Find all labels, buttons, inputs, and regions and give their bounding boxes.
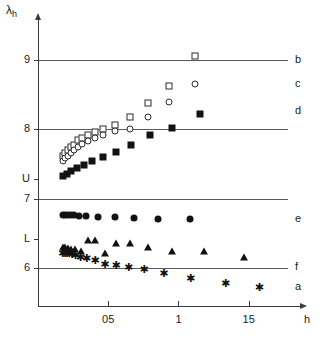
data-point-d xyxy=(89,158,96,165)
y-tick-label-9: 9 xyxy=(8,54,30,65)
data-point-d xyxy=(80,162,87,169)
data-point-a: ✱ xyxy=(186,273,195,282)
y-tick-7 xyxy=(34,199,39,200)
data-point-d xyxy=(112,148,119,155)
data-point-e xyxy=(94,213,101,220)
gridline-y-7 xyxy=(38,199,288,200)
y-tick-L xyxy=(34,239,39,240)
data-point-a: ✱ xyxy=(159,269,168,278)
data-point-d xyxy=(73,165,80,172)
chart-canvas: λh h 9876UL 05115 ✱✱✱✱✱✱✱✱✱✱✱✱✱✱✱✱✱ bcde… xyxy=(0,0,319,342)
data-point-c xyxy=(165,98,172,105)
data-point-e xyxy=(131,215,138,222)
data-point-d xyxy=(197,111,204,118)
data-point-f xyxy=(240,253,248,260)
x-axis-title: h xyxy=(304,314,310,325)
gridline-y-9 xyxy=(38,60,288,61)
series-label-f: f xyxy=(295,261,298,272)
data-point-b xyxy=(165,83,172,90)
y-tick-9 xyxy=(34,60,39,61)
data-point-d xyxy=(128,141,135,148)
x-axis-arrowhead xyxy=(300,303,307,309)
y-tick-label-6: 6 xyxy=(8,262,30,273)
data-point-f xyxy=(144,244,152,251)
data-point-e xyxy=(155,216,162,223)
y-tick-label-U: U xyxy=(8,173,30,184)
data-point-b xyxy=(126,113,133,120)
data-point-a: ✱ xyxy=(221,279,230,288)
data-point-e xyxy=(76,212,83,219)
data-point-f xyxy=(112,239,120,246)
gridline-y-8 xyxy=(38,129,288,130)
data-point-a: ✱ xyxy=(255,283,264,292)
y-tick-label-L: L xyxy=(8,233,30,244)
data-point-d xyxy=(169,124,176,131)
data-point-a: ✱ xyxy=(124,262,133,271)
data-point-e xyxy=(111,214,118,221)
data-point-a: ✱ xyxy=(90,255,99,264)
data-point-c xyxy=(91,135,98,142)
data-point-b xyxy=(192,52,199,59)
series-label-e: e xyxy=(295,213,301,224)
series-label-b: b xyxy=(295,54,301,65)
x-tick-label-1: 1 xyxy=(158,314,198,325)
x-tick-05 xyxy=(108,301,109,306)
y-tick-8 xyxy=(34,129,39,130)
data-point-f xyxy=(91,237,99,244)
data-point-e xyxy=(83,212,90,219)
x-tick-label-05: 05 xyxy=(88,314,128,325)
data-point-e xyxy=(187,216,194,223)
x-tick-label-15: 15 xyxy=(229,314,269,325)
x-axis-line xyxy=(38,306,300,307)
series-label-a: a xyxy=(295,281,301,292)
x-tick-15 xyxy=(249,301,250,306)
y-tick-label-7: 7 xyxy=(8,193,30,204)
y-axis-title-subscript: h xyxy=(12,9,17,19)
y-tick-6 xyxy=(34,268,39,269)
y-axis-title: λh xyxy=(6,4,17,20)
data-point-d xyxy=(100,154,107,161)
data-point-d xyxy=(147,131,154,138)
data-point-f xyxy=(126,239,134,246)
y-axis-arrowhead xyxy=(35,13,41,20)
data-point-a: ✱ xyxy=(140,265,149,274)
series-label-d: d xyxy=(295,105,301,116)
y-tick-label-8: 8 xyxy=(8,123,30,134)
data-point-c xyxy=(84,138,91,145)
data-point-c xyxy=(111,128,118,135)
data-point-c xyxy=(126,125,133,132)
data-point-c xyxy=(192,80,199,87)
data-point-a: ✱ xyxy=(100,260,109,269)
data-point-a: ✱ xyxy=(111,261,120,270)
data-point-b xyxy=(145,100,152,107)
x-tick-1 xyxy=(178,301,179,306)
data-point-f xyxy=(200,248,208,255)
data-point-c xyxy=(145,113,152,120)
y-tick-U xyxy=(34,179,39,180)
y-axis-line xyxy=(38,20,39,306)
series-label-c: c xyxy=(295,78,301,89)
data-point-c xyxy=(100,131,107,138)
data-point-f xyxy=(101,249,109,256)
data-point-f xyxy=(168,248,176,255)
